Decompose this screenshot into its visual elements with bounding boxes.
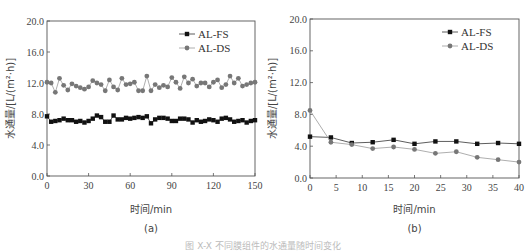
data-point-square [224, 116, 228, 120]
data-point-circle [253, 80, 258, 85]
data-point-circle [329, 140, 334, 145]
legend-label: AL-FS [198, 28, 229, 40]
data-point-square [240, 118, 244, 122]
data-point-circle [169, 75, 174, 80]
data-point-circle [207, 84, 212, 89]
data-point-square [95, 113, 99, 117]
data-point-square [190, 120, 194, 124]
data-point-square [116, 117, 120, 121]
data-point-circle [349, 142, 354, 147]
data-point-square [124, 116, 128, 120]
x-axis-label: 时间/min [130, 203, 172, 215]
data-point-square [174, 119, 178, 123]
data-point-circle [370, 146, 375, 151]
y-tick-label: 16.0 [27, 47, 45, 58]
y-axis-label: 水通量/[L/(m²·h)] [267, 58, 278, 139]
data-point-square [178, 116, 182, 120]
data-point-square [199, 120, 203, 124]
data-point-square [120, 117, 124, 121]
data-point-circle [194, 84, 199, 89]
data-point-square [149, 121, 153, 125]
x-tick-label: 30 [462, 182, 472, 193]
legend-marker-circle [185, 46, 190, 51]
data-point-circle [219, 85, 224, 90]
data-point-square [145, 114, 149, 118]
data-point-circle [107, 78, 112, 83]
data-point-square [371, 140, 375, 144]
data-point-circle [433, 151, 438, 156]
data-point-square [157, 116, 161, 120]
data-point-square [128, 116, 132, 120]
data-point-square [517, 142, 521, 146]
legend-marker-square [185, 32, 189, 36]
data-point-square [103, 120, 107, 124]
data-point-circle [203, 81, 208, 86]
data-point-square [228, 117, 232, 121]
data-point-square [496, 141, 500, 145]
data-point-square [391, 138, 395, 142]
data-point-circle [103, 88, 108, 93]
data-point-circle [232, 81, 237, 86]
data-point-square [236, 119, 240, 123]
data-point-circle [454, 149, 459, 154]
data-point-square [165, 116, 169, 120]
x-tick-label: 150 [248, 180, 263, 191]
data-point-circle [199, 81, 204, 86]
data-point-square [70, 118, 74, 122]
data-point-circle [78, 85, 83, 90]
data-point-circle [140, 88, 145, 93]
figure: 0.04.08.012.016.020.00306090120150时间/min… [0, 0, 527, 252]
data-point-square [203, 119, 207, 123]
legend-marker-square [448, 30, 452, 34]
x-tick-label: 0 [45, 180, 50, 191]
y-tick-label: 4.0 [295, 141, 308, 152]
data-point-circle [244, 82, 249, 87]
data-point-circle [174, 80, 179, 85]
data-point-circle [215, 78, 220, 83]
data-point-circle [132, 80, 137, 85]
data-point-square [57, 118, 61, 122]
data-point-circle [149, 88, 154, 93]
y-tick-label: 8.0 [295, 109, 308, 120]
x-tick-label: 40 [514, 182, 524, 193]
legend-label: AL-FS [461, 26, 492, 38]
data-point-circle [124, 82, 129, 87]
data-point-square [86, 119, 90, 123]
data-point-square [66, 118, 70, 122]
data-point-circle [90, 78, 95, 83]
legend-label: AL-DS [198, 42, 230, 54]
data-point-square [91, 116, 95, 120]
data-point-square [132, 116, 136, 120]
data-point-square [308, 134, 312, 138]
data-point-square [82, 120, 86, 124]
data-point-square [220, 116, 224, 120]
data-point-circle [161, 83, 166, 88]
panel-label: (a) [144, 223, 158, 234]
data-point-square [253, 118, 257, 122]
data-point-square [195, 118, 199, 122]
data-point-circle [412, 147, 417, 152]
x-tick-label: 30 [84, 180, 94, 191]
data-point-square [412, 142, 416, 146]
data-point-circle [61, 83, 66, 88]
data-point-circle [223, 82, 228, 87]
data-point-circle [182, 74, 187, 79]
data-point-circle [99, 82, 104, 87]
data-point-circle [240, 84, 245, 89]
data-point-square [136, 115, 140, 119]
data-point-circle [128, 81, 133, 86]
data-point-circle [178, 86, 183, 91]
x-tick-label: 5 [334, 182, 339, 193]
data-point-square [111, 113, 115, 117]
data-point-circle [111, 84, 116, 89]
data-point-square [329, 135, 333, 139]
data-point-circle [74, 84, 79, 89]
data-point-square [170, 119, 174, 123]
y-tick-label: 12.0 [290, 77, 308, 88]
y-tick-label: 4.0 [32, 140, 45, 151]
data-point-circle [57, 76, 62, 81]
data-point-circle [236, 76, 241, 81]
data-point-square [53, 119, 57, 123]
y-tick-label: 12.0 [27, 78, 45, 89]
data-point-circle [86, 84, 91, 89]
